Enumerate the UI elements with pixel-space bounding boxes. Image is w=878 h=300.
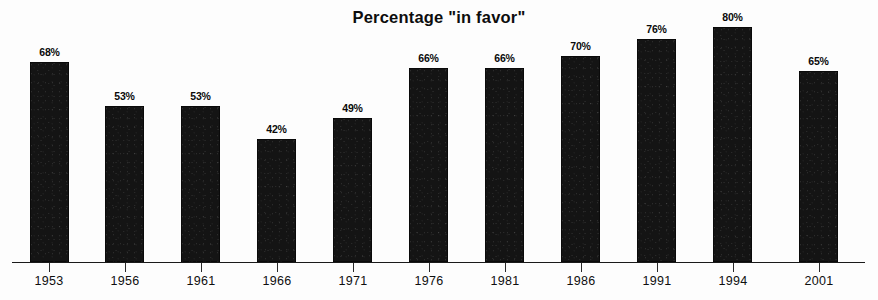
axis-label-1971: 1971 <box>318 274 388 288</box>
bar-slot: 42% <box>239 26 314 262</box>
bar-value-label: 66% <box>399 52 458 64</box>
bar-1953[interactable] <box>30 62 69 262</box>
bar-slot: 70% <box>543 26 618 262</box>
x-axis-line <box>12 262 865 263</box>
bar-value-label: 76% <box>627 23 686 35</box>
bar-1971[interactable] <box>333 118 372 262</box>
bar-1991[interactable] <box>637 39 676 262</box>
axis-tick <box>819 263 820 272</box>
bar-value-label: 66% <box>475 52 534 64</box>
bar-slot: 68% <box>12 26 87 262</box>
bar-slot: 66% <box>467 26 542 262</box>
axis-tick <box>353 263 354 272</box>
axis-tick <box>201 263 202 272</box>
bar-value-label: 65% <box>789 55 848 67</box>
axis-label-1956: 1956 <box>90 274 160 288</box>
axis-tick <box>733 263 734 272</box>
bar-value-label: 49% <box>323 102 382 114</box>
axis-tick <box>505 263 506 272</box>
axis-label-1981: 1981 <box>470 274 540 288</box>
axis-label-1994: 1994 <box>698 274 768 288</box>
bar-1981[interactable] <box>485 68 524 262</box>
axis-tick <box>49 263 50 272</box>
axis-label-1961: 1961 <box>166 274 236 288</box>
bar-1994[interactable] <box>713 27 752 262</box>
axis-label-1953: 1953 <box>14 274 84 288</box>
axis-tick <box>429 263 430 272</box>
bar-1956[interactable] <box>105 106 144 262</box>
bar-value-label: 53% <box>95 90 154 102</box>
axis-tick <box>125 263 126 272</box>
bar-1966[interactable] <box>257 139 296 262</box>
axis-tick <box>277 263 278 272</box>
bar-slot: 76% <box>619 26 694 262</box>
bar-slot: 66% <box>391 26 466 262</box>
axis-tick <box>657 263 658 272</box>
bar-slot: 53% <box>163 26 238 262</box>
bar-1976[interactable] <box>409 68 448 262</box>
bar-chart-figure: Percentage "in favor" 68% 53% 53% 42% 49… <box>0 0 878 300</box>
bar-slot: 80% <box>695 26 770 262</box>
bar-value-label: 53% <box>171 90 230 102</box>
plot-area: 68% 53% 53% 42% 49% 66% 66% 70% <box>12 26 866 262</box>
axis-label-1986: 1986 <box>546 274 616 288</box>
axis-label-1991: 1991 <box>622 274 692 288</box>
bar-2001[interactable] <box>799 71 838 262</box>
axis-tick <box>581 263 582 272</box>
bar-slot: 49% <box>315 26 390 262</box>
bar-value-label: 80% <box>703 11 762 23</box>
axis-label-1976: 1976 <box>394 274 464 288</box>
bar-value-label: 70% <box>551 40 610 52</box>
bar-1961[interactable] <box>181 106 220 262</box>
bar-slot: 65% <box>781 26 856 262</box>
bar-value-label: 68% <box>20 46 79 58</box>
axis-label-1966: 1966 <box>242 274 312 288</box>
bar-value-label: 42% <box>247 123 306 135</box>
bar-1986[interactable] <box>561 56 600 262</box>
axis-label-2001: 2001 <box>784 274 854 288</box>
bar-slot: 53% <box>87 26 162 262</box>
